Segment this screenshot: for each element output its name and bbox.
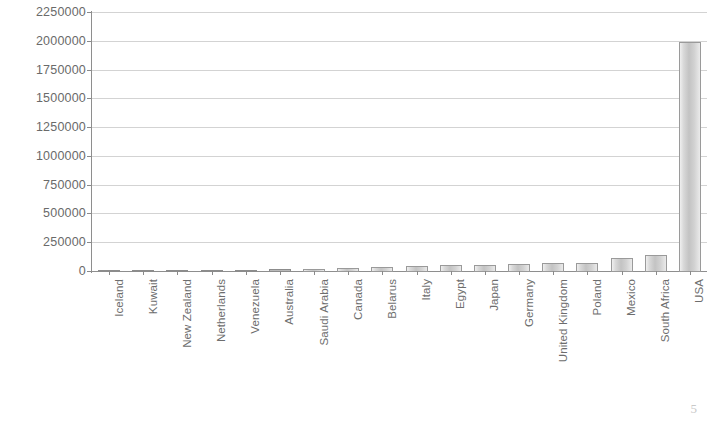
x-tick-mark <box>143 271 144 275</box>
bar-slot <box>536 11 570 272</box>
x-tick-mark <box>314 271 315 275</box>
x-tick-mark <box>587 271 588 275</box>
x-tick-label: Kuwait <box>148 279 160 314</box>
x-tick-mark <box>109 271 110 275</box>
x-tick-label: Mexico <box>626 279 638 316</box>
bar-chart: 2250000200000017500001500000125000010000… <box>0 0 713 437</box>
y-axis: 2250000200000017500001500000125000010000… <box>0 0 92 290</box>
bar-slot <box>434 11 468 272</box>
bar-slot <box>468 11 502 272</box>
y-tick-label: 2000000 <box>36 35 86 48</box>
y-tick-label: 0 <box>79 265 86 278</box>
y-tick-label: 1250000 <box>36 121 86 134</box>
bar-slot <box>263 11 297 272</box>
y-tick-label: 1750000 <box>36 63 86 76</box>
x-tick-label: Netherlands <box>216 279 228 342</box>
bar-slot <box>160 11 194 272</box>
x-tick-mark <box>417 271 418 275</box>
bar-slot <box>605 11 639 272</box>
x-tick-mark <box>246 271 247 275</box>
bar-slot <box>673 11 707 272</box>
bar-slot <box>639 11 673 272</box>
x-tick-label: United Kingdom <box>558 279 570 362</box>
y-tick-label: 750000 <box>43 178 86 191</box>
bar[interactable] <box>679 42 701 272</box>
x-tick-mark <box>382 271 383 275</box>
y-tick-label: 2250000 <box>36 6 86 19</box>
plot-area <box>92 11 707 272</box>
x-tick-label: Australia <box>284 279 296 325</box>
x-tick-mark <box>280 271 281 275</box>
x-tick-mark <box>177 271 178 275</box>
x-tick-label: Belarus <box>387 279 399 319</box>
x-tick-mark <box>553 271 554 275</box>
bar[interactable] <box>611 258 633 272</box>
x-tick-mark <box>690 271 691 275</box>
bar-slot <box>365 11 399 272</box>
x-tick-label: South Africa <box>660 279 672 342</box>
bar-slot <box>126 11 160 272</box>
x-tick-label: Japan <box>489 279 501 311</box>
x-tick-mark <box>622 271 623 275</box>
x-tick-label: Germany <box>524 279 536 327</box>
x-tick-label: Venezuela <box>250 279 262 334</box>
x-tick-label: USA <box>694 279 706 303</box>
bar-slot <box>400 11 434 272</box>
x-tick-mark <box>212 271 213 275</box>
x-tick-label: Saudi Arabia <box>319 279 331 345</box>
bar-slot <box>195 11 229 272</box>
x-tick-mark <box>519 271 520 275</box>
x-tick-label: New Zealand <box>182 279 194 348</box>
x-tick-mark <box>656 271 657 275</box>
y-tick-label: 250000 <box>43 236 86 249</box>
bar[interactable] <box>645 255 667 272</box>
x-tick-label: Canada <box>353 279 365 320</box>
x-tick-label: Italy <box>421 279 433 301</box>
x-tick-mark <box>348 271 349 275</box>
x-tick-label: Egypt <box>455 279 467 309</box>
x-tick-label: Poland <box>592 279 604 315</box>
bar-slot <box>229 11 263 272</box>
y-tick-label: 1000000 <box>36 150 86 163</box>
bar-slot <box>331 11 365 272</box>
x-tick-label: Iceland <box>114 279 126 317</box>
page-number: 5 <box>691 401 698 417</box>
bar-slot <box>570 11 604 272</box>
bar-slot <box>502 11 536 272</box>
x-tick-mark <box>451 271 452 275</box>
bar-slot <box>297 11 331 272</box>
y-tick-label: 1500000 <box>36 92 86 105</box>
y-tick-label: 500000 <box>43 207 86 220</box>
x-tick-mark <box>485 271 486 275</box>
bar-slot <box>92 11 126 272</box>
